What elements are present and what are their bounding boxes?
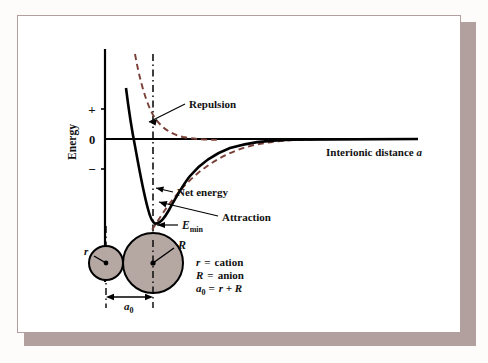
net-energy-leader-arrow — [156, 187, 164, 193]
y-tick-label-plus: + — [88, 102, 95, 117]
repulsion-curve — [135, 54, 218, 140]
a0-dimension-label: a0 — [124, 300, 134, 315]
legend-line-cation: r=cation — [196, 256, 243, 268]
legend-cation-value: cation — [215, 256, 244, 268]
cation-radius-label: r — [84, 245, 89, 257]
figure-card: + 0 − Energy Interionic distance a Repul… — [17, 15, 461, 333]
net-energy-label: Net energy — [177, 186, 229, 198]
legend-anion-value: anion — [218, 269, 244, 281]
x-axis-title-var: a — [416, 146, 422, 158]
x-axis-title: Interionic distance a — [326, 146, 422, 158]
cation-center-dot — [104, 261, 109, 266]
attraction-leader-arrow — [159, 201, 168, 208]
legend-cation-symbol: r — [196, 256, 201, 268]
a0-arrow-right — [145, 294, 153, 300]
x-axis-title-text: Interionic distance — [326, 146, 416, 158]
y-axis-title: Energy — [66, 124, 79, 160]
a0-arrow-left — [106, 294, 114, 300]
energy-vs-interionic-distance-diagram: + 0 − Energy Interionic distance a Repul… — [18, 16, 459, 331]
emin-label-subscript: min — [190, 225, 204, 234]
emin-label-base: E — [181, 219, 190, 231]
emin-label: Emin — [181, 219, 204, 234]
legend-anion-symbol: R — [195, 269, 203, 281]
attraction-curve — [147, 139, 318, 238]
legend-spacing-equals: = — [209, 282, 215, 294]
legend-spacing-value: r + R — [219, 282, 242, 294]
legend-line-spacing: a0=r + R — [196, 282, 242, 297]
repulsion-label: Repulsion — [189, 98, 236, 110]
repulsion-leader-line — [149, 104, 185, 122]
legend-cation-equals: = — [204, 256, 210, 268]
figure-page: + 0 − Energy Interionic distance a Repul… — [0, 0, 488, 363]
y-tick-label-zero: 0 — [89, 133, 95, 147]
attraction-label: Attraction — [222, 211, 271, 223]
anion-radius-label: R — [177, 238, 186, 252]
legend-spacing-subscript: 0 — [202, 288, 206, 297]
legend-anion-equals: = — [207, 269, 213, 281]
a0-label-subscript: 0 — [130, 306, 134, 315]
y-tick-label-minus: − — [88, 162, 95, 177]
legend-line-anion: R=anion — [195, 269, 244, 281]
